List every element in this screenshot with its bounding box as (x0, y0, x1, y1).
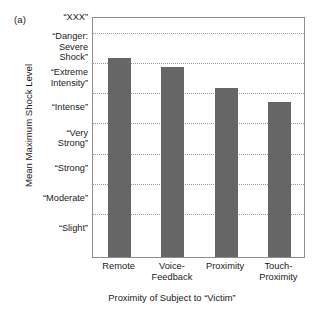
bar (215, 88, 238, 257)
plot-area (92, 17, 305, 258)
bar (161, 67, 184, 257)
x-axis-title: Proximity of Subject to “Victim” (38, 292, 306, 303)
y-tick-label: “XXX” (24, 12, 88, 22)
bar (108, 58, 131, 257)
y-tick-label: “Intense” (24, 102, 88, 112)
x-tick-label: Touch- Proximity (244, 261, 313, 284)
bar-series (93, 18, 304, 257)
y-tick-label: “Very Strong” (24, 127, 88, 148)
y-tick-label: “Slight” (24, 223, 88, 233)
bar (268, 102, 291, 257)
y-tick-label: “Extreme Intensity” (24, 67, 88, 88)
y-tick-label: “Strong” (24, 162, 88, 172)
y-tick-label: “Danger: Severe Shock” (24, 32, 88, 63)
x-axis-tick-labels: RemoteVoice- FeedbackProximityTouch- Pro… (92, 261, 305, 291)
y-tick-label: “Moderate” (24, 193, 88, 203)
bar-chart-figure: (a) Mean Maximum Shock Level “Slight”“Mo… (0, 0, 317, 313)
y-axis-tick-labels: “Slight”“Moderate”“Strong”“Very Strong”“… (24, 17, 88, 258)
